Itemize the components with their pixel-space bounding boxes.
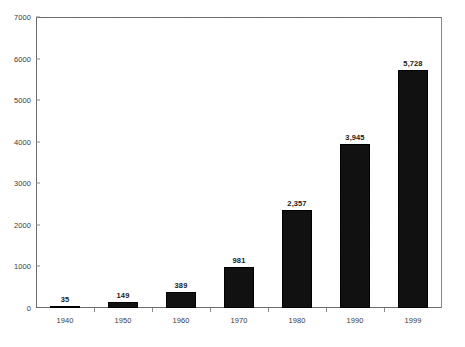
bar-value-label-1999: 5,728 bbox=[403, 59, 422, 68]
y-axis-tick-mark bbox=[36, 266, 40, 267]
y-axis-tick-label: 3000 bbox=[0, 179, 31, 188]
x-axis-tick-label: 1999 bbox=[404, 316, 421, 325]
y-axis-tick-label: 1000 bbox=[0, 262, 31, 271]
x-axis-tick-mark bbox=[210, 308, 211, 312]
bar-chart: 01000200030004000500060007000 1940195019… bbox=[0, 0, 465, 347]
bar-value-label-1950: 149 bbox=[117, 291, 130, 300]
x-axis-tick-mark bbox=[152, 308, 153, 312]
y-axis-tick-label: 6000 bbox=[0, 54, 31, 63]
bar-value-label-1940: 35 bbox=[61, 295, 70, 304]
bar-1999 bbox=[398, 70, 428, 308]
bar-value-label-1990: 3,945 bbox=[345, 133, 364, 142]
bar-1990 bbox=[340, 144, 370, 308]
bar-1940 bbox=[50, 306, 80, 308]
x-axis-tick-label: 1950 bbox=[114, 316, 131, 325]
y-axis-tick-mark bbox=[36, 141, 40, 142]
bar-1980 bbox=[282, 210, 312, 308]
y-axis-tick-mark bbox=[36, 17, 40, 18]
x-axis-tick-mark bbox=[268, 308, 269, 312]
bar-1950 bbox=[108, 302, 138, 308]
x-axis-tick-mark bbox=[326, 308, 327, 312]
bar-value-label-1960: 389 bbox=[175, 281, 188, 290]
x-axis-tick-label: 1940 bbox=[56, 316, 73, 325]
y-axis-tick-label: 4000 bbox=[0, 137, 31, 146]
y-axis-tick-label: 2000 bbox=[0, 220, 31, 229]
x-axis-tick-label: 1990 bbox=[346, 316, 363, 325]
y-axis-tick-mark bbox=[36, 183, 40, 184]
bar-1970 bbox=[224, 267, 254, 308]
y-axis-tick-label: 5000 bbox=[0, 96, 31, 105]
bar-1960 bbox=[166, 292, 196, 308]
y-axis-tick-mark bbox=[36, 224, 40, 225]
y-axis-tick-mark bbox=[36, 58, 40, 59]
x-axis-tick-label: 1980 bbox=[288, 316, 305, 325]
x-axis-tick-label: 1960 bbox=[172, 316, 189, 325]
y-axis-tick-label: 0 bbox=[0, 304, 31, 313]
x-axis-tick-label: 1970 bbox=[230, 316, 247, 325]
bar-value-label-1980: 2,357 bbox=[287, 199, 306, 208]
x-axis-tick-mark bbox=[384, 308, 385, 312]
y-axis-tick-label: 7000 bbox=[0, 13, 31, 22]
y-axis-tick-mark bbox=[36, 100, 40, 101]
x-axis-tick-mark bbox=[94, 308, 95, 312]
bar-value-label-1970: 981 bbox=[233, 256, 246, 265]
